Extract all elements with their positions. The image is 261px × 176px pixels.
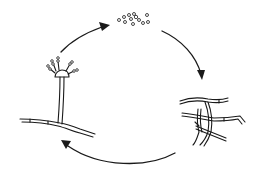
arrow-icon [162, 31, 205, 80]
life-cycle-diagram [0, 0, 261, 176]
mycelium-icon [180, 98, 245, 146]
conidiophore-icon [20, 57, 95, 137]
arrow-icon [61, 140, 175, 163]
arrow-icon [61, 22, 110, 52]
spores-icon [118, 13, 150, 26]
